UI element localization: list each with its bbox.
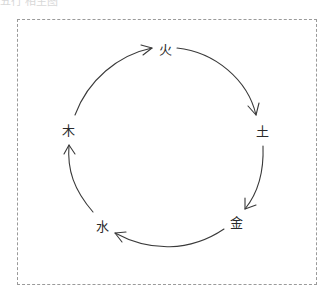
node-earth: 土 bbox=[256, 125, 269, 138]
arrow-earth-to-metal bbox=[245, 146, 263, 209]
node-water: 水 bbox=[96, 220, 109, 233]
node-wood: 木 bbox=[62, 124, 75, 137]
node-metal: 金 bbox=[230, 216, 243, 229]
arrow-fire-to-earth bbox=[177, 48, 259, 115]
arrow-metal-to-water bbox=[115, 229, 224, 247]
arrow-water-to-wood bbox=[64, 145, 93, 212]
arrow-wood-to-fire bbox=[75, 45, 152, 115]
node-fire: 火 bbox=[159, 43, 172, 56]
